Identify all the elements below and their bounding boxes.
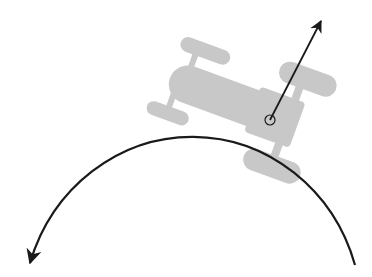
curved-path: [30, 137, 355, 265]
diagram-svg: [0, 0, 372, 277]
diagram-canvas: [0, 0, 372, 277]
rear-left-wheel: [276, 59, 340, 100]
car: [138, 20, 339, 188]
front-left-wheel: [178, 35, 232, 67]
